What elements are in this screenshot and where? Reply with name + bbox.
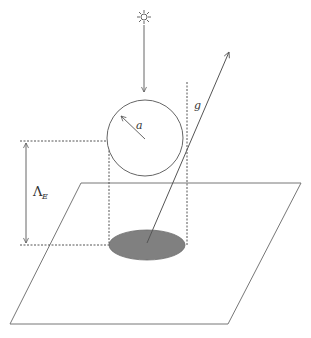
height-label: Λ E xyxy=(32,184,48,201)
shadow-ellipse xyxy=(109,230,185,260)
gravity-label: g xyxy=(194,99,201,112)
diagram-canvas: Λ E a g xyxy=(0,0,311,338)
height-subscript: E xyxy=(41,192,48,201)
radius-label: a xyxy=(136,119,143,132)
sphere xyxy=(107,100,183,176)
sun-icon xyxy=(137,10,151,24)
